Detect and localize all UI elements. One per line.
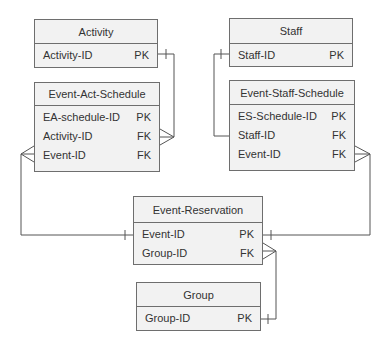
entity-event-staff-schedule[interactable]: Event-Staff-Schedule ES-Schedule-ID PK S…: [229, 80, 355, 171]
attribute-row: Group-ID PK: [145, 309, 252, 328]
attribute-key: PK: [136, 108, 151, 127]
attribute-key: FK: [137, 127, 151, 146]
attribute-row: Staff-ID FK: [238, 126, 346, 145]
rel-group-er: [261, 243, 276, 324]
attribute-key: PK: [237, 309, 252, 328]
entity-title: Event-Act-Schedule: [35, 83, 159, 106]
attribute-name: Staff-ID: [238, 46, 275, 65]
attribute-key: FK: [137, 146, 151, 165]
entity-event-act-schedule[interactable]: Event-Act-Schedule EA-schedule-ID PK Act…: [34, 82, 160, 172]
attribute-row: Staff-ID PK: [238, 46, 344, 65]
attribute-row: Event-ID FK: [43, 146, 151, 165]
attribute-name: Event-ID: [142, 225, 185, 244]
attribute-row: Group-ID FK: [142, 244, 254, 263]
attribute-key: PK: [329, 46, 344, 65]
attribute-row: Event-ID PK: [142, 225, 254, 244]
entity-title: Event-Staff-Schedule: [230, 81, 354, 105]
entity-event-reservation[interactable]: Event-Reservation Event-ID PK Group-ID F…: [133, 196, 263, 265]
attribute-name: Event-ID: [43, 146, 86, 165]
attribute-row: ES-Schedule-ID PK: [238, 107, 346, 126]
attribute-key: FK: [240, 244, 254, 263]
entity-title: Activity: [35, 20, 157, 44]
attribute-key: PK: [239, 225, 254, 244]
attribute-name: Event-ID: [238, 145, 281, 164]
attribute-key: FK: [332, 145, 346, 164]
rel-activity-eas: [158, 49, 174, 145]
attribute-name: Staff-ID: [238, 126, 275, 145]
attribute-key: PK: [134, 46, 149, 65]
entity-title: Group: [137, 283, 260, 307]
attribute-row: Event-ID FK: [238, 145, 346, 164]
attribute-key: FK: [332, 126, 346, 145]
attribute-key: PK: [331, 107, 346, 126]
entity-activity[interactable]: Activity Activity-ID PK: [34, 19, 158, 68]
attribute-row: EA-schedule-ID PK: [43, 108, 151, 127]
entity-title: Staff: [230, 19, 352, 44]
entity-title: Event-Reservation: [134, 197, 262, 223]
attribute-row: Activity-ID PK: [43, 46, 149, 65]
attribute-name: Group-ID: [145, 309, 190, 328]
attribute-name: ES-Schedule-ID: [238, 107, 317, 126]
entity-staff[interactable]: Staff Staff-ID PK: [229, 18, 353, 67]
rel-staff-ess: [214, 49, 229, 136]
attribute-name: Activity-ID: [43, 127, 93, 146]
attribute-name: Group-ID: [142, 244, 187, 263]
attribute-row: Activity-ID FK: [43, 127, 151, 146]
attribute-name: EA-schedule-ID: [43, 108, 120, 127]
entity-group[interactable]: Group Group-ID PK: [136, 282, 261, 331]
attribute-name: Activity-ID: [43, 46, 93, 65]
